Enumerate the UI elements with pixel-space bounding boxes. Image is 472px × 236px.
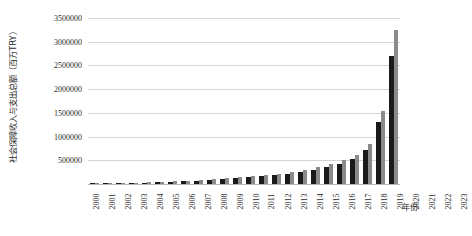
x-axis-tick: 2023: [459, 194, 468, 210]
bar-group: [322, 18, 335, 184]
bar-group: [348, 18, 361, 184]
x-axis-tick-cell: 2011: [264, 186, 280, 228]
x-axis-tick-cell: 2002: [120, 186, 136, 228]
bar-group: [205, 18, 218, 184]
bar-expenditure: [355, 155, 359, 184]
y-axis-tick: 2500000: [54, 61, 82, 70]
x-axis-tick-cell: 2008: [216, 186, 232, 228]
x-axis-tick-cell: 2022: [440, 186, 456, 228]
y-axis-tick: 3500000: [54, 14, 82, 23]
bar-group: [283, 18, 296, 184]
x-axis-tick: 2009: [236, 194, 245, 210]
bar-group: [309, 18, 322, 184]
y-axis-tick: 500000: [58, 156, 82, 165]
x-axis-tick: 2013: [299, 194, 308, 210]
x-axis-tick: 2006: [188, 194, 197, 210]
x-axis-tick: 2001: [108, 194, 117, 210]
bar-group: [192, 18, 205, 184]
x-axis-title: 年份: [402, 200, 418, 212]
bar-group: [166, 18, 179, 184]
y-axis-tick-labels: 5000001000000150000020000002500000300000…: [22, 0, 84, 190]
x-axis-tick-cell: 2018: [376, 186, 392, 228]
bar-expenditure: [381, 111, 385, 185]
bar-group: [257, 18, 270, 184]
x-axis-tick: 2012: [283, 194, 292, 210]
bar-expenditure: [303, 170, 307, 184]
x-axis-tick: 2000: [92, 194, 101, 210]
bar-group: [114, 18, 127, 184]
x-axis-tick: 2014: [315, 194, 324, 210]
x-axis-tick: 2022: [443, 194, 452, 210]
x-axis-tick-cell: 2007: [200, 186, 216, 228]
x-axis-tick-cell: 2004: [152, 186, 168, 228]
y-axis-tick: 1000000: [54, 132, 82, 141]
y-axis-tick: 3000000: [54, 37, 82, 46]
bar-expenditure: [290, 172, 294, 184]
bar-expenditure: [251, 176, 255, 184]
x-axis-tick-cell: 2021: [424, 186, 440, 228]
bar-group: [387, 18, 400, 184]
x-axis-tick: 2018: [379, 194, 388, 210]
x-axis-tick: 2011: [267, 194, 276, 210]
bar-group: [218, 18, 231, 184]
bar-group: [296, 18, 309, 184]
x-axis-tick-cell: 2000: [88, 186, 104, 228]
x-axis-tick: 2003: [140, 194, 149, 210]
bar-expenditure: [394, 30, 398, 184]
bar-group: [101, 18, 114, 184]
x-axis-tick-cell: 2013: [296, 186, 312, 228]
y-axis-title: 社会保障收入与支出总额（百万TRY）: [2, 0, 22, 190]
bar-group: [127, 18, 140, 184]
x-axis-tick-cell: 2005: [168, 186, 184, 228]
y-axis-tick: 2000000: [54, 85, 82, 94]
bar-group: [361, 18, 374, 184]
bar-expenditure: [277, 174, 281, 184]
x-axis-tick-cell: 2017: [360, 186, 376, 228]
x-axis-tick-cell: 2016: [344, 186, 360, 228]
bar-expenditure: [342, 160, 346, 184]
y-axis-tick: 1500000: [54, 108, 82, 117]
bar-expenditure: [238, 177, 242, 184]
x-axis-line: [88, 184, 400, 185]
x-axis-tick: 2008: [220, 194, 229, 210]
bar-expenditure: [264, 175, 268, 184]
x-axis-tick: 2015: [331, 194, 340, 210]
x-axis-tick: 2021: [427, 194, 436, 210]
bar-expenditure: [329, 164, 333, 184]
x-axis-tick: 2010: [252, 194, 261, 210]
bar-group: [88, 18, 101, 184]
x-axis-tick-cell: 2001: [104, 186, 120, 228]
x-axis-tick-cell: 2015: [328, 186, 344, 228]
bars-container: [88, 18, 400, 184]
bar-group: [231, 18, 244, 184]
x-axis-tick-cell: 2003: [136, 186, 152, 228]
x-axis-tick-cell: 2012: [280, 186, 296, 228]
bar-group: [153, 18, 166, 184]
plot-area: [88, 18, 400, 184]
x-axis-tick-cell: 2014: [312, 186, 328, 228]
x-axis-tick-cell: 2010: [248, 186, 264, 228]
bar-group: [374, 18, 387, 184]
x-axis-tick: 2017: [363, 194, 372, 210]
x-axis-tick-cell: 2006: [184, 186, 200, 228]
bar-group: [270, 18, 283, 184]
x-axis-tick: 2005: [172, 194, 181, 210]
x-axis-tick: 2004: [156, 194, 165, 210]
bar-expenditure: [368, 144, 372, 184]
bar-group: [244, 18, 257, 184]
y-axis-title-label: 社会保障收入与支出总额（百万TRY）: [6, 27, 18, 162]
bar-group: [335, 18, 348, 184]
x-axis-tick: 2007: [204, 194, 213, 210]
x-axis-tick: 2002: [124, 194, 133, 210]
bar-group: [179, 18, 192, 184]
x-axis-tick: 2016: [347, 194, 356, 210]
x-axis-tick-labels: 2000200120022003200420052006200720082009…: [88, 186, 400, 228]
x-axis-tick-cell: 2009: [232, 186, 248, 228]
bar-expenditure: [316, 167, 320, 184]
bar-group: [140, 18, 153, 184]
x-axis-tick-cell: 2023: [456, 186, 472, 228]
